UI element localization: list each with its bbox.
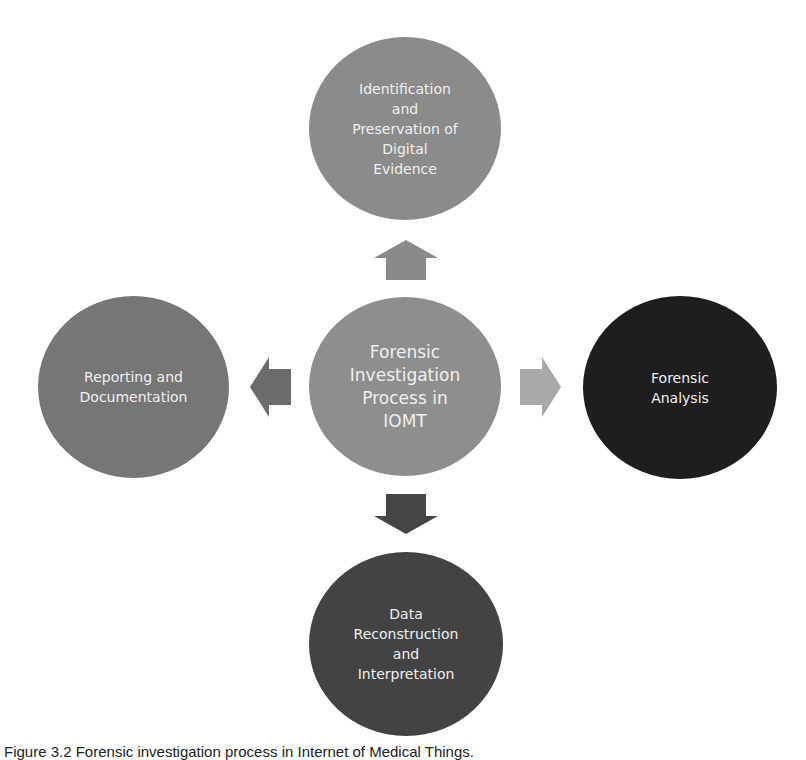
node-identification-preservation: Identification and Preservation of Digit… xyxy=(309,37,501,220)
node-center-label: Forensic Investigation Process in IOMT xyxy=(350,341,460,433)
figure-caption: Figure 3.2 Forensic investigation proces… xyxy=(4,743,474,760)
node-identification-label: Identification and Preservation of Digit… xyxy=(352,79,458,179)
node-reporting-documentation: Reporting and Documentation xyxy=(38,296,229,478)
arrow-up-icon xyxy=(374,240,438,280)
arrow-left-icon xyxy=(250,357,291,417)
node-data-reconstruction-interpretation: Data Reconstruction and Interpretation xyxy=(309,552,503,736)
node-data-reconstruction-label: Data Reconstruction and Interpretation xyxy=(354,604,459,684)
arrow-down-icon xyxy=(374,494,438,534)
node-forensic-investigation-process: Forensic Investigation Process in IOMT xyxy=(309,297,501,476)
node-forensic-analysis: Forensic Analysis xyxy=(583,296,777,479)
arrow-right-icon xyxy=(520,357,561,417)
node-forensic-analysis-label: Forensic Analysis xyxy=(651,368,709,408)
node-reporting-label: Reporting and Documentation xyxy=(80,367,188,407)
